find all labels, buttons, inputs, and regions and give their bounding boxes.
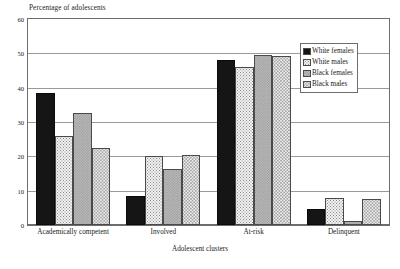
x-tick-label: Involved	[151, 228, 177, 236]
bar	[92, 148, 111, 225]
bar	[163, 169, 182, 225]
y-axis-tick-labels: 0102030405060	[0, 18, 27, 226]
legend-swatch-icon	[303, 48, 311, 55]
legend-item: White males	[303, 57, 354, 68]
x-tick-label: At-risk	[243, 228, 263, 236]
bar	[344, 221, 363, 225]
x-tick-label: Delinquent	[328, 228, 360, 236]
bar-cluster	[126, 19, 200, 225]
y-tick-label: 30	[17, 119, 24, 126]
bar-cluster	[217, 19, 291, 225]
y-tick-label: 10	[17, 187, 24, 194]
y-tick-label: 50	[17, 50, 24, 57]
legend: White femalesWhite malesBlack femalesBla…	[300, 43, 358, 93]
bar	[126, 196, 145, 225]
y-tick-label: 40	[17, 84, 24, 91]
y-tick-label: 20	[17, 153, 24, 160]
bar	[55, 136, 74, 225]
x-axis-tick-labels: Academically competentInvolvedAt-riskDel…	[27, 228, 390, 242]
bar	[325, 198, 344, 225]
y-tick-label: 60	[17, 16, 24, 23]
legend-swatch-icon	[303, 59, 311, 66]
legend-swatch-icon	[303, 81, 311, 88]
bar	[217, 60, 236, 225]
bar	[36, 93, 55, 225]
bar	[254, 55, 273, 225]
legend-label: Black females	[312, 70, 353, 77]
bar-chart: Percentage of adolescents 0102030405060 …	[0, 0, 400, 269]
y-tick-label: 0	[21, 222, 24, 229]
bar	[182, 155, 201, 225]
legend-label: Black males	[312, 81, 347, 88]
legend-swatch-icon	[303, 70, 311, 77]
legend-label: White males	[312, 59, 348, 66]
bar	[145, 156, 164, 225]
legend-label: White females	[312, 48, 354, 55]
bar	[73, 113, 92, 225]
legend-item: White females	[303, 46, 354, 57]
x-axis-title: Adolescent clusters	[0, 245, 400, 253]
bar	[307, 209, 326, 225]
bar	[235, 67, 254, 225]
legend-item: Black females	[303, 68, 354, 79]
y-axis-title: Percentage of adolescents	[29, 4, 106, 12]
x-tick-label: Academically competent	[37, 228, 109, 236]
legend-item: Black males	[303, 79, 354, 90]
bar	[362, 199, 381, 225]
bar-cluster	[36, 19, 110, 225]
bar	[272, 56, 291, 225]
